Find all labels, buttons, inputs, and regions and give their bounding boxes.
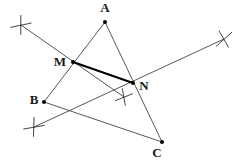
side-BC	[44, 102, 162, 142]
construction-lines-group	[21, 25, 224, 127]
vertex-dot-B	[42, 100, 46, 104]
vertex-dot-M	[71, 60, 75, 64]
geometry-diagram: ABCMN	[0, 0, 245, 162]
vertex-dot-A	[103, 20, 107, 24]
vertex-labels-group: ABCMN	[30, 0, 162, 160]
midsegment-group	[73, 62, 133, 83]
arc-cross-center	[115, 88, 133, 106]
arc-cross-top-right	[213, 28, 234, 49]
vertex-label-B: B	[30, 92, 39, 107]
arc-cross-top-left	[10, 14, 33, 37]
arc-cross-top-left-stroke-b	[15, 15, 26, 34]
vertex-label-M: M	[54, 54, 66, 69]
perpendicular-bisector-AC	[34, 39, 224, 127]
vertex-dot-N	[131, 81, 135, 85]
arc-cross-top-right-stroke-b	[219, 30, 228, 49]
arc-crosses-group	[10, 14, 235, 139]
geometry-canvas: ABCMN	[0, 0, 245, 162]
vertex-label-C: C	[152, 145, 161, 160]
vertex-label-N: N	[139, 78, 149, 93]
midsegment-MN	[73, 62, 133, 83]
vertex-label-A: A	[100, 0, 110, 15]
arc-cross-center-stroke-b	[120, 89, 127, 106]
vertex-dot-C	[160, 140, 164, 144]
arc-cross-bottom-left	[22, 115, 45, 138]
